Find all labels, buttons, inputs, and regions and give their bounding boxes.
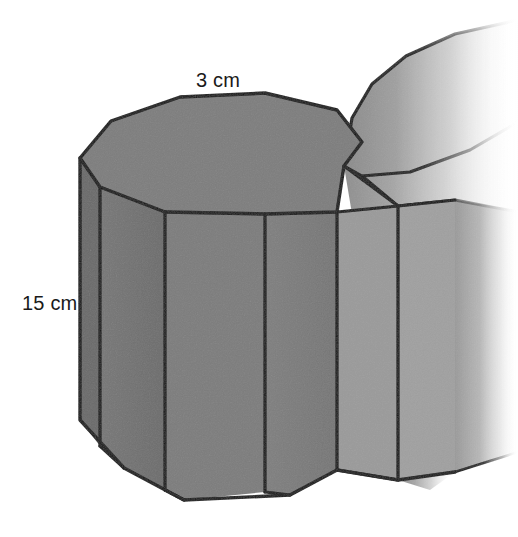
figure-root: 3 cm 15 cm bbox=[0, 0, 518, 537]
top-edge-dimension-label: 3 cm bbox=[196, 70, 240, 90]
body-face-right-outer bbox=[398, 200, 455, 480]
body-face-front-left bbox=[100, 187, 165, 490]
body-face-left-edge bbox=[80, 158, 100, 446]
body-face-front-center bbox=[165, 212, 265, 500]
height-dimension-label: 15 cm bbox=[22, 293, 77, 313]
body-face-right-inner bbox=[337, 206, 398, 480]
body-face-front-right bbox=[265, 212, 337, 495]
decagonal-prism-figure bbox=[0, 0, 518, 537]
ghost-right-tall-panel bbox=[455, 200, 518, 472]
